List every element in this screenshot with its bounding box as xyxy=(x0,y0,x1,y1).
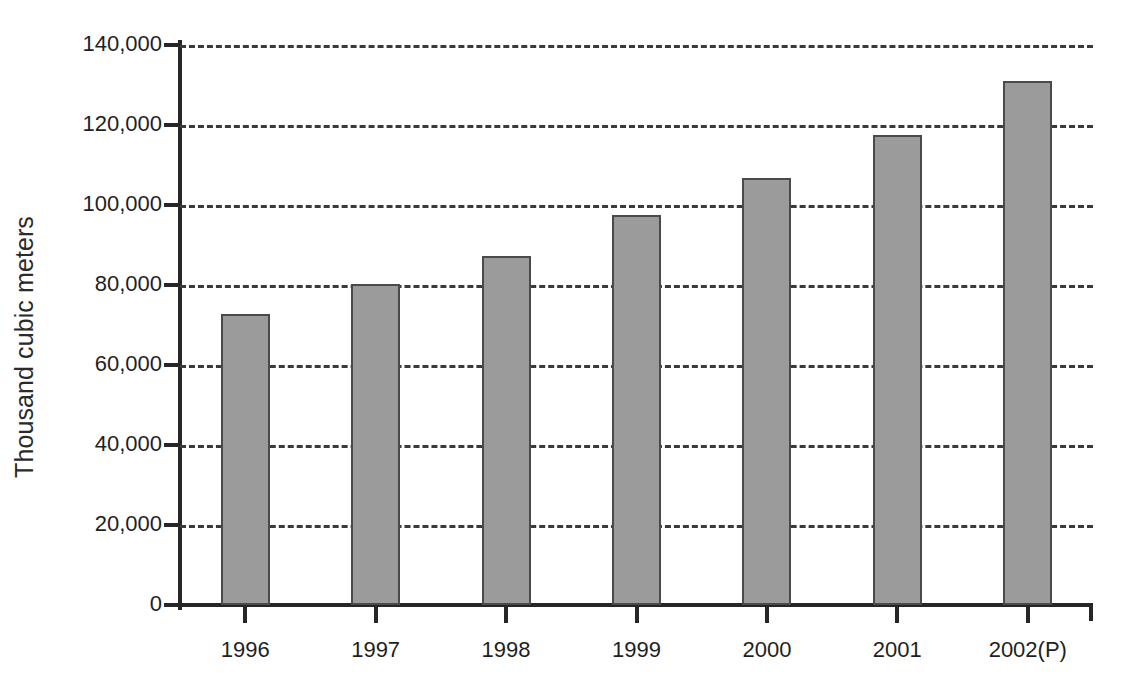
gridline xyxy=(180,45,1093,48)
y-axis-tick xyxy=(164,283,180,287)
y-axis-tick-label: 120,000 xyxy=(50,111,162,137)
y-axis-tick xyxy=(164,203,180,207)
y-axis-tick xyxy=(164,363,180,367)
y-axis-title: Thousand cubic meters xyxy=(0,0,48,694)
x-axis-tick xyxy=(895,605,899,623)
x-axis-tick xyxy=(374,605,378,623)
y-axis-tick xyxy=(164,523,180,527)
y-axis-tick-label: 60,000 xyxy=(50,351,162,377)
x-axis-tick xyxy=(765,605,769,623)
y-axis-tick-label: 80,000 xyxy=(50,271,162,297)
y-axis-tick-label: 40,000 xyxy=(50,431,162,457)
plot-area: 020,00040,00060,00080,000100,000120,0001… xyxy=(180,45,1093,605)
bar-1997 xyxy=(351,284,400,605)
y-axis-tick xyxy=(164,43,180,47)
gridline xyxy=(180,205,1093,208)
y-axis-tick-label: 0 xyxy=(50,591,162,617)
x-axis-tick xyxy=(1026,605,1030,623)
y-axis-tick xyxy=(164,603,180,607)
x-axis-tick xyxy=(243,605,247,623)
x-axis-tick xyxy=(635,605,639,623)
x-axis-tick xyxy=(504,605,508,623)
bar-chart: Thousand cubic meters 020,00040,00060,00… xyxy=(0,0,1121,694)
bar-1998 xyxy=(482,256,531,605)
bar-2002p xyxy=(1003,81,1052,605)
x-axis-tick-label: 2002(P) xyxy=(948,637,1108,663)
x-axis-end-cap xyxy=(1089,603,1093,621)
y-axis-tick-label: 100,000 xyxy=(50,191,162,217)
bar-1999 xyxy=(612,215,661,605)
bar-2000 xyxy=(742,178,791,605)
bar-2001 xyxy=(873,135,922,605)
bar-1996 xyxy=(221,314,270,605)
y-axis-tick xyxy=(164,443,180,447)
gridline xyxy=(180,125,1093,128)
y-axis-tick-label: 20,000 xyxy=(50,511,162,537)
y-axis-tick-label: 140,000 xyxy=(50,31,162,57)
y-axis-tick xyxy=(164,123,180,127)
